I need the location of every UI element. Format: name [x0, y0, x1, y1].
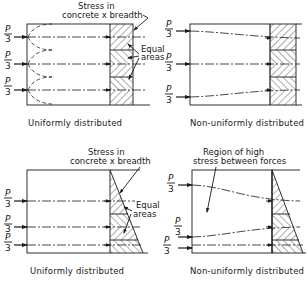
- svg-text:P: P: [166, 52, 172, 62]
- load-label-p3: P 3: [165, 52, 173, 73]
- svg-text:3: 3: [5, 87, 11, 97]
- load-label-p3: P 3: [163, 235, 171, 256]
- svg-text:P: P: [5, 24, 11, 34]
- load-label-p3: P 3: [167, 173, 175, 194]
- svg-text:P: P: [5, 188, 11, 198]
- svg-text:3: 3: [166, 95, 172, 105]
- svg-text:P: P: [5, 232, 11, 242]
- load-label-p3: P 3: [4, 24, 12, 44]
- panel-bottom-right: P 3 P 3 P 3 Region of high stress betwee…: [163, 147, 306, 276]
- concrete-member: [27, 170, 110, 253]
- panel-top-right: P 3 P 3 P 3 Non-uniformly distributed: [165, 19, 304, 128]
- caption-top-left: Uniformly distributed: [28, 118, 122, 128]
- svg-text:P: P: [5, 214, 11, 224]
- caption-top-right: Non-uniformly distributed: [190, 118, 304, 128]
- load-label-p3: P 3: [4, 50, 12, 71]
- annotation-areas-line2: areas: [133, 209, 157, 219]
- panel-bottom-left: P 3 P 3 P 3 Stress in concrete x breadth…: [4, 147, 160, 276]
- svg-text:P: P: [5, 50, 11, 60]
- svg-text:3: 3: [168, 184, 174, 194]
- svg-text:3: 3: [5, 243, 11, 253]
- svg-text:P: P: [164, 235, 170, 245]
- concrete-member: [192, 170, 272, 253]
- anchorage-stress-diagram: P 3 P 3 P 3 Stress in concrete x breadth…: [0, 0, 308, 283]
- svg-text:P: P: [168, 173, 174, 183]
- annotation-stress-line2: concrete x breadth: [62, 10, 143, 20]
- annotation-areas-line2: areas: [141, 52, 165, 62]
- svg-text:3: 3: [164, 246, 170, 256]
- load-label-p3: P 3: [165, 84, 173, 105]
- svg-text:3: 3: [5, 199, 11, 209]
- panel-top-left: P 3 P 3 P 3 Stress in concrete x breadth…: [4, 1, 165, 128]
- load-label-p3: P 3: [4, 188, 12, 209]
- load-label-p3: P 3: [4, 214, 12, 234]
- caption-bottom-right: Non-uniformly distributed: [190, 266, 304, 276]
- svg-text:3: 3: [166, 29, 172, 39]
- svg-text:P: P: [166, 84, 172, 94]
- svg-text:3: 3: [5, 34, 11, 44]
- annotation-stress-line2: concrete x breadth: [70, 156, 151, 166]
- svg-text:3: 3: [166, 63, 172, 73]
- caption-bottom-left: Uniformly distributed: [30, 266, 124, 276]
- load-label-p3: P 3: [4, 232, 12, 253]
- svg-text:3: 3: [175, 227, 181, 237]
- svg-text:P: P: [5, 76, 11, 86]
- svg-text:P: P: [175, 216, 181, 226]
- annotation-region-line2: stress between forces: [193, 156, 287, 166]
- svg-text:3: 3: [5, 61, 11, 71]
- load-label-p3: P 3: [4, 76, 12, 97]
- load-label-p3: P 3: [165, 19, 173, 39]
- svg-text:P: P: [166, 19, 172, 29]
- load-label-p3: P 3: [174, 216, 182, 237]
